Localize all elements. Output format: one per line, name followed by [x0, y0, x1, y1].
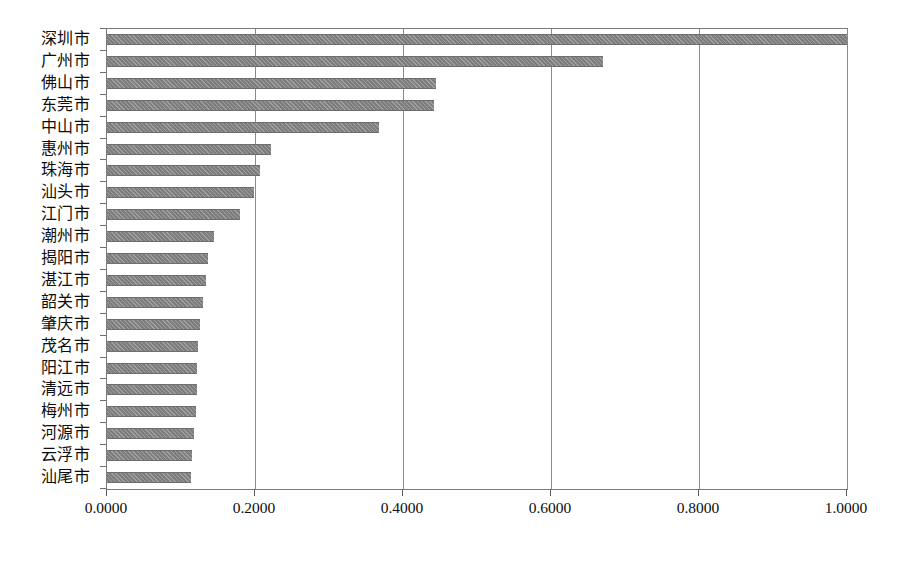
x-axis-tick: [846, 489, 847, 496]
bar-韶关市[interactable]: [107, 297, 203, 308]
y-axis-label-河源市: 河源市: [41, 422, 91, 444]
bar-梅州市[interactable]: [107, 406, 196, 417]
y-axis-label-茂名市: 茂名市: [41, 335, 91, 357]
bar-汕尾市[interactable]: [107, 472, 191, 483]
x-axis-label-0.6000: 0.6000: [529, 499, 572, 517]
bar-row: [107, 445, 847, 467]
bar-中山市[interactable]: [107, 122, 379, 133]
y-axis-label-梅州市: 梅州市: [41, 400, 91, 422]
y-axis-label-湛江市: 湛江市: [41, 269, 91, 291]
y-axis-category-labels: 深圳市广州市佛山市东莞市中山市惠州市珠海市汕头市江门市潮州市揭阳市湛江市韶关市肇…: [0, 28, 100, 488]
bar-row: [107, 204, 847, 226]
y-axis-label-佛山市: 佛山市: [41, 72, 91, 94]
y-axis-label-深圳市: 深圳市: [41, 28, 91, 50]
x-axis-tick: [254, 489, 255, 496]
y-axis-label-广州市: 广州市: [41, 50, 91, 72]
bar-row: [107, 95, 847, 117]
bar-row: [107, 51, 847, 73]
horizontal-bar-chart: 深圳市广州市佛山市东莞市中山市惠州市珠海市汕头市江门市潮州市揭阳市湛江市韶关市肇…: [0, 0, 902, 562]
bar-江门市[interactable]: [107, 209, 240, 220]
bar-row: [107, 73, 847, 95]
x-axis: 0.00000.20000.40000.60000.80001.0000: [106, 489, 846, 529]
bar-汕头市[interactable]: [107, 187, 254, 198]
y-axis-label-汕尾市: 汕尾市: [41, 466, 91, 488]
bar-row: [107, 270, 847, 292]
bar-云浮市[interactable]: [107, 450, 192, 461]
x-axis-label-0.8000: 0.8000: [677, 499, 720, 517]
bar-row: [107, 248, 847, 270]
y-axis-label-江门市: 江门市: [41, 203, 91, 225]
bar-清远市[interactable]: [107, 384, 197, 395]
x-axis-tick: [550, 489, 551, 496]
x-axis-tick: [106, 489, 107, 496]
bar-row: [107, 314, 847, 336]
plot-area: [106, 28, 848, 490]
bar-row: [107, 29, 847, 51]
x-axis-label-0.0000: 0.0000: [85, 499, 128, 517]
x-axis-label-1.0000: 1.0000: [825, 499, 868, 517]
y-axis-label-韶关市: 韶关市: [41, 291, 91, 313]
bar-珠海市[interactable]: [107, 165, 260, 176]
bar-河源市[interactable]: [107, 428, 194, 439]
x-axis-tick: [402, 489, 403, 496]
bar-row: [107, 117, 847, 139]
bar-东莞市[interactable]: [107, 100, 434, 111]
bar-row: [107, 292, 847, 314]
y-axis-label-惠州市: 惠州市: [41, 138, 91, 160]
bar-深圳市[interactable]: [107, 34, 847, 45]
bar-阳江市[interactable]: [107, 363, 197, 374]
y-axis-label-东莞市: 东莞市: [41, 94, 91, 116]
y-axis-label-阳江市: 阳江市: [41, 357, 91, 379]
bar-row: [107, 423, 847, 445]
bar-佛山市[interactable]: [107, 78, 436, 89]
x-axis-tick: [698, 489, 699, 496]
y-axis-label-汕头市: 汕头市: [41, 181, 91, 203]
y-axis-label-中山市: 中山市: [41, 116, 91, 138]
bar-row: [107, 401, 847, 423]
bar-揭阳市[interactable]: [107, 253, 208, 264]
bar-row: [107, 379, 847, 401]
bar-row: [107, 139, 847, 161]
bar-row: [107, 160, 847, 182]
y-axis-label-清远市: 清远市: [41, 378, 91, 400]
x-axis-label-0.4000: 0.4000: [381, 499, 424, 517]
bar-广州市[interactable]: [107, 56, 603, 67]
bar-row: [107, 358, 847, 380]
bar-茂名市[interactable]: [107, 341, 198, 352]
y-axis-label-云浮市: 云浮市: [41, 444, 91, 466]
bar-湛江市[interactable]: [107, 275, 206, 286]
gridline-x-1.0000: [847, 29, 848, 489]
bar-row: [107, 467, 847, 489]
bar-row: [107, 336, 847, 358]
bar-肇庆市[interactable]: [107, 319, 200, 330]
bar-row: [107, 226, 847, 248]
x-axis-label-0.2000: 0.2000: [233, 499, 276, 517]
y-axis-label-肇庆市: 肇庆市: [41, 313, 91, 335]
y-axis-label-潮州市: 潮州市: [41, 225, 91, 247]
y-axis-label-珠海市: 珠海市: [41, 159, 91, 181]
bar-潮州市[interactable]: [107, 231, 214, 242]
bar-惠州市[interactable]: [107, 144, 271, 155]
bar-row: [107, 182, 847, 204]
y-axis-label-揭阳市: 揭阳市: [41, 247, 91, 269]
